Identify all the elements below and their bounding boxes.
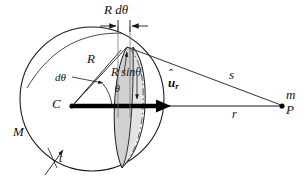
label-ring-radius: R sinθ — [111, 66, 141, 78]
unit-vector-hat-glyph: ˆ — [169, 68, 173, 80]
unit-vector-subscript-glyph: r — [175, 81, 179, 91]
field-point-dot — [279, 103, 284, 108]
label-polar-angle: θ — [115, 84, 120, 94]
label-slant-distance: s — [229, 68, 234, 81]
label-point-mass: m — [286, 88, 295, 101]
label-radius: R — [87, 52, 95, 65]
label-unit-vector: ˆur — [168, 76, 179, 91]
label-arc-width: R dθ — [104, 3, 128, 16]
physics-diagram-figure: R dθ R dθ R sinθ θ C M t s r m P ˆur — [0, 0, 306, 182]
label-angle-increment: dθ — [55, 72, 66, 83]
label-thickness: t — [59, 152, 62, 164]
diagram-canvas — [0, 0, 306, 182]
label-shell-mass: M — [13, 125, 24, 138]
label-center: C — [52, 97, 61, 110]
label-center-distance: r — [232, 108, 237, 120]
label-field-point: P — [286, 103, 294, 116]
